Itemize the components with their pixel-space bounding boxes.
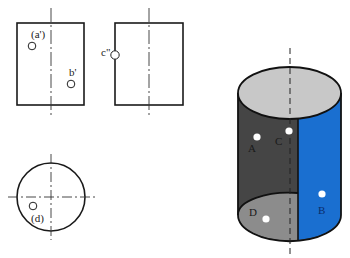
point-C-marker xyxy=(285,127,292,134)
point-B-label: B xyxy=(318,204,325,216)
point-A-marker xyxy=(253,133,260,140)
point-D-marker xyxy=(262,215,269,222)
point-C-label: C xyxy=(275,135,282,147)
point-B-marker xyxy=(318,190,325,197)
point-c-double-prime-label: c" xyxy=(101,46,110,58)
top-view: (d) xyxy=(8,154,95,240)
point-a-prime-label: (a') xyxy=(31,28,46,41)
side-view: c" xyxy=(101,8,183,116)
front-view: (a') b' xyxy=(17,8,84,116)
point-A-label: A xyxy=(248,142,256,154)
point-d-label: (d) xyxy=(31,212,44,225)
diagram-canvas: (a') b' c" (d) A xyxy=(0,0,350,258)
cylinder-3d: A B C D xyxy=(238,48,341,254)
point-c-double-prime-marker xyxy=(111,51,119,59)
front-view-outline xyxy=(17,23,84,105)
point-b-prime-label: b' xyxy=(69,66,77,78)
point-d-marker xyxy=(29,202,37,210)
point-b-prime-marker xyxy=(67,80,75,88)
point-D-label: D xyxy=(249,206,257,218)
point-a-prime-marker xyxy=(28,42,36,50)
